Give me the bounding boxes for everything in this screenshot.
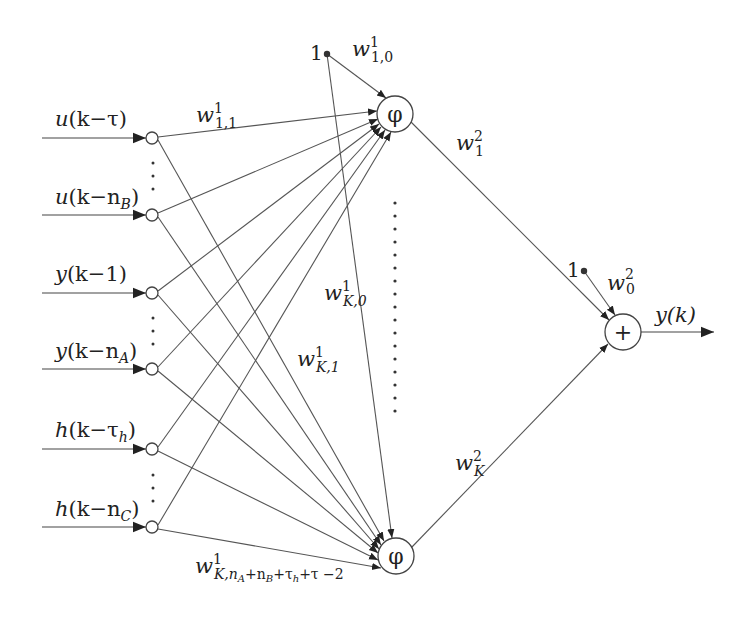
edges-to-output [411, 122, 714, 548]
weight-w2-K: w2K [455, 448, 486, 479]
weight-w1-last: w1K,nA+nB+τh+τ −2 [195, 551, 344, 584]
input-label-h-tauh: h(k−τh) [55, 418, 136, 445]
phi-symbol: φ [387, 102, 402, 127]
bias-label-hidden: 1 [310, 41, 323, 65]
weight-w1-K1: w1K,1 [297, 344, 340, 375]
input-label-y-1: y(k−1) [54, 262, 127, 286]
hidden-ellipsis [393, 201, 396, 412]
input-label-u-tau: u(k−τ) [55, 107, 127, 131]
input-node [146, 287, 158, 299]
input-node [146, 363, 158, 375]
input-node [146, 132, 158, 144]
hidden-node-K: φ [378, 538, 414, 574]
hidden-node-1: φ [377, 96, 413, 132]
weight-w2-0: w20 [607, 266, 635, 297]
weight-w1-11: w11,1 [196, 100, 237, 131]
plus-symbol: + [614, 320, 632, 345]
input-node [146, 209, 158, 221]
output-sum-node: + [605, 314, 641, 350]
input-label-y-na: y(k−nA) [54, 339, 137, 366]
input-label-u-nb: u(k−nB) [55, 185, 139, 212]
input-label-h-nc: h(k−nC) [55, 497, 140, 524]
input-nodes [146, 132, 158, 533]
neural-network-diagram: 1 1 φ φ + y(k) u(k−τ) u(k−nB) y(k−1) y(k… [0, 0, 749, 623]
input-node [146, 443, 158, 455]
edges-to-hidden-K [158, 54, 392, 568]
phi-symbol: φ [388, 544, 403, 569]
input-node [146, 521, 158, 533]
weight-w1-10: w11,0 [352, 34, 393, 65]
weight-w2-1: w21 [456, 128, 484, 159]
bias-label-output: 1 [567, 258, 580, 282]
input-labels: u(k−τ) u(k−nB) y(k−1) y(k−nA) h(k−τh) h(… [54, 107, 140, 524]
output-label: y(k) [654, 303, 696, 327]
bias-dot-hidden [324, 51, 330, 57]
bias-dot-output [581, 268, 587, 274]
edges-to-hidden-1 [158, 54, 391, 525]
weight-w1-K0: w1K,0 [324, 278, 367, 309]
